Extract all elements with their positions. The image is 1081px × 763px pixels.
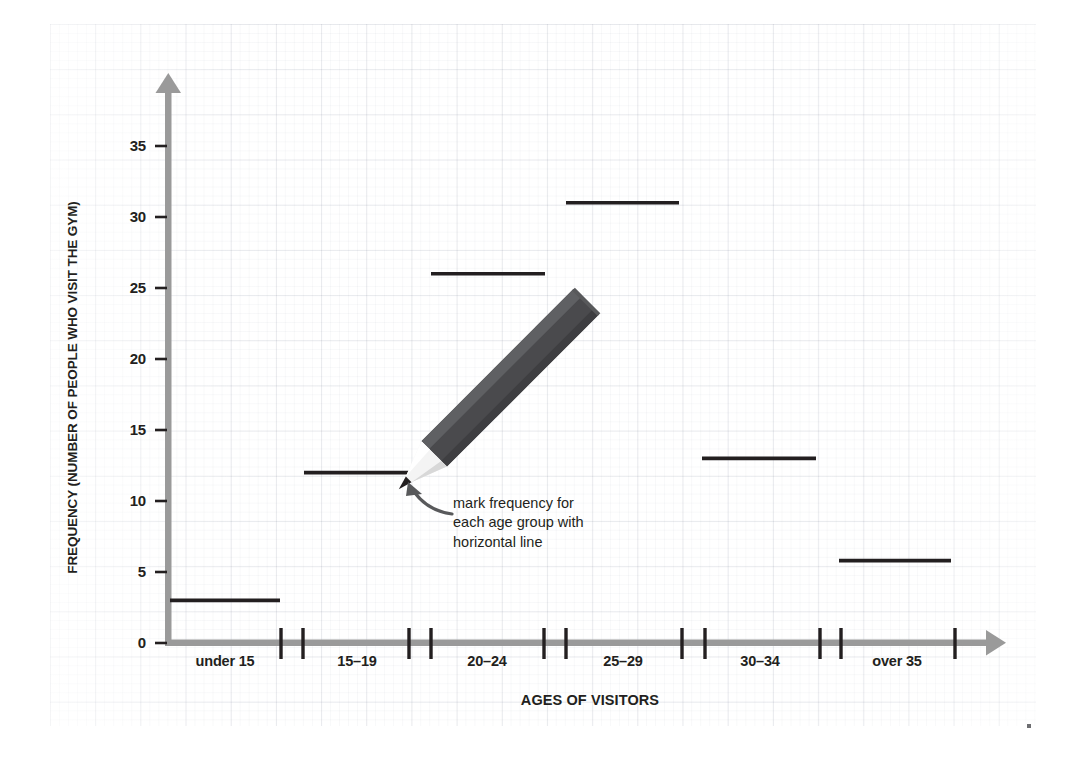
annotation-line-2: each age group with bbox=[453, 513, 683, 532]
x-tick-label-under-15: under 15 bbox=[155, 653, 295, 669]
y-tick-label-5: 5 bbox=[112, 563, 146, 580]
x-tick-label-20-24: 20–24 bbox=[417, 653, 557, 669]
y-tick-label-0: 0 bbox=[112, 634, 146, 651]
y-tick-label-20: 20 bbox=[112, 350, 146, 367]
x-axis-title: AGES OF VISITORS bbox=[390, 692, 790, 708]
curved-arrow-head bbox=[406, 482, 422, 496]
y-tick-label-35: 35 bbox=[112, 137, 146, 154]
pencil-facet-light bbox=[421, 289, 581, 449]
x-tick-label-25-29: 25–29 bbox=[553, 653, 693, 669]
x-tick-label-30-34: 30–34 bbox=[690, 653, 830, 669]
annotation-text: mark frequency for each age group with h… bbox=[453, 494, 683, 552]
y-axis-arrowhead bbox=[156, 73, 182, 93]
x-axis-arrowhead bbox=[986, 630, 1006, 656]
axis-group bbox=[156, 73, 1007, 656]
curved-arrow-icon bbox=[406, 482, 452, 514]
annotation-line-1: mark frequency for bbox=[453, 494, 683, 513]
x-tick-label-over-35: over 35 bbox=[827, 653, 967, 669]
x-axis-line bbox=[165, 640, 990, 647]
y-tick-label-15: 15 bbox=[112, 421, 146, 438]
pencil-icon bbox=[386, 288, 600, 502]
pencil-barrel bbox=[421, 289, 598, 466]
y-tick-label-10: 10 bbox=[112, 492, 146, 509]
worksheet-page: 0 5 10 15 20 25 30 35 under 15 15–19 20–… bbox=[0, 0, 1081, 763]
y-tick-label-30: 30 bbox=[112, 208, 146, 225]
page-corner-mark bbox=[1027, 724, 1031, 728]
x-tick-label-15-19: 15–19 bbox=[287, 653, 427, 669]
y-axis-title: FREQUENCY (NUMBER OF PEOPLE WHO VISIT TH… bbox=[65, 178, 80, 598]
annotation-line-3: horizontal line bbox=[453, 533, 683, 552]
chart-plot bbox=[0, 0, 1081, 763]
y-axis-line bbox=[165, 86, 172, 645]
pencil-facet-dark bbox=[441, 309, 599, 467]
y-tick-label-25: 25 bbox=[112, 279, 146, 296]
